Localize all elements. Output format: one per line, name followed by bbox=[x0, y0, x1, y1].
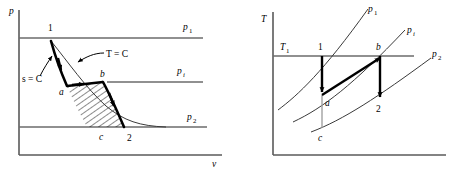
state-point-a-label: a bbox=[325, 98, 330, 108]
svg-text:p: p bbox=[186, 112, 192, 122]
svg-text:1: 1 bbox=[286, 47, 289, 54]
figure-container: p v p 1 p i p 2 s = C T = C 1 a b c 2 bbox=[0, 0, 453, 174]
svg-text:i: i bbox=[413, 30, 415, 37]
svg-text:1: 1 bbox=[374, 9, 377, 16]
annotation-s-const: s = C bbox=[22, 74, 42, 84]
svg-text:p: p bbox=[367, 4, 373, 14]
pv-y-axis-label: p bbox=[8, 6, 14, 16]
ts-y-axis-label: T bbox=[261, 14, 267, 24]
isobar-p2-line bbox=[311, 58, 431, 132]
isobar-pi-label: p i bbox=[406, 25, 415, 37]
isobar-p1-label: p 1 bbox=[182, 22, 192, 34]
isobar-p2-label: p 2 bbox=[431, 49, 442, 61]
leader-s-const bbox=[40, 56, 52, 76]
isobar-p1-label: p 1 bbox=[367, 4, 377, 16]
leader-t-const bbox=[78, 53, 104, 62]
isobar-pi-line bbox=[293, 30, 405, 122]
state-point-2-label: 2 bbox=[127, 133, 132, 143]
state-point-b-label: b bbox=[100, 69, 105, 79]
svg-text:2: 2 bbox=[193, 117, 197, 124]
process-a-to-b bbox=[322, 58, 380, 95]
svg-text:1: 1 bbox=[189, 27, 192, 34]
state-point-2-label: 2 bbox=[376, 104, 381, 114]
state-point-b-label: b bbox=[376, 42, 381, 52]
svg-text:p: p bbox=[406, 25, 412, 35]
pv-diagram-panel: p v p 1 p i p 2 s = C T = C 1 a b c 2 bbox=[0, 0, 228, 174]
svg-text:p: p bbox=[431, 49, 437, 59]
state-point-c-label: c bbox=[99, 132, 104, 142]
state-point-a-label: a bbox=[59, 87, 64, 97]
pv-x-axis-label: v bbox=[212, 159, 217, 169]
ts-axes bbox=[273, 12, 446, 155]
svg-text:2: 2 bbox=[438, 54, 442, 61]
svg-text:p: p bbox=[182, 22, 188, 32]
isotherm-T1-label: T 1 bbox=[280, 42, 289, 54]
annotation-t-const: T = C bbox=[106, 49, 128, 59]
ts-diagram-panel: T T 1 p 1 p i p 2 1 a b c 2 bbox=[228, 0, 453, 174]
state-point-1-label: 1 bbox=[48, 23, 53, 33]
isobar-pi-label: p i bbox=[176, 66, 185, 78]
svg-text:i: i bbox=[183, 71, 185, 78]
isobar-p2-label: p 2 bbox=[186, 112, 197, 124]
state-point-1-label: 1 bbox=[318, 42, 323, 52]
state-point-c-label: c bbox=[318, 133, 323, 143]
arrow-a-to-b bbox=[72, 84, 84, 85]
svg-text:p: p bbox=[176, 66, 182, 76]
